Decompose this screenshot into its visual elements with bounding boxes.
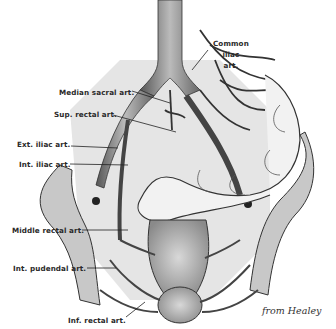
label-median-sacral: Median sacral art. — [59, 88, 134, 97]
anal-canal — [158, 287, 202, 323]
label-ext-iliac: Ext. iliac art. — [17, 140, 70, 149]
figure-credit: from Healey — [262, 305, 321, 316]
label-common-iliac-line2: iliac — [213, 49, 249, 60]
label-sup-rectal: Sup. rectal art. — [54, 110, 117, 119]
anatomical-figure: Common iliac art. Median sacral art. Sup… — [0, 0, 336, 329]
label-int-iliac: Int. iliac art. — [19, 160, 71, 169]
label-common-iliac-line1: Common — [213, 38, 249, 49]
label-common-iliac-line3: art. — [213, 60, 249, 71]
label-common-iliac: Common iliac art. — [213, 38, 249, 71]
label-middle-rectal: Middle rectal art. — [12, 226, 84, 235]
label-int-pudendal: Int. pudendal art. — [13, 264, 86, 273]
label-inf-rectal: Inf. rectal art. — [68, 316, 126, 325]
